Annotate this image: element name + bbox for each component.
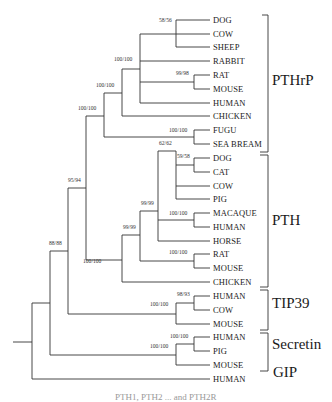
leaf-label: PIG [213, 346, 227, 356]
leaf-label: COW [213, 181, 233, 191]
leaf-label: MOUSE [213, 319, 243, 329]
bootstrap-value: 88/88 [49, 240, 62, 247]
bootstrap-value: 100/100 [96, 82, 114, 89]
family-label-pth: PTH [272, 212, 300, 228]
bootstrap-value: 62/62 [159, 140, 172, 147]
leaf-label: RAT [213, 70, 229, 80]
leaf-label: RAT [213, 249, 229, 259]
bootstrap-value: 100/100 [169, 127, 187, 134]
leaf-label: SHEEP [213, 42, 239, 52]
bootstrap-value: 100/100 [169, 210, 187, 217]
leaf-label: HUMAN [213, 98, 246, 108]
bootstrap-value: 98/93 [177, 291, 190, 298]
leaf-label: COW [213, 305, 233, 315]
leaf-label: MOUSE [213, 84, 243, 94]
bootstrap-value: 100/100 [78, 105, 96, 112]
leaf-label: RABBIT [213, 56, 245, 66]
bootstrap-value: 100/100 [169, 249, 187, 256]
leaf-label: CAT [213, 167, 229, 177]
leaf-label: MACAQUE [213, 208, 257, 218]
leaf-label: MOUSE [213, 360, 243, 370]
leaf-label: FUGU [213, 125, 237, 135]
bootstrap-value: 100/100 [114, 56, 132, 63]
leaf-label: COW [213, 29, 233, 39]
family-label-pthrp: PTHrP [272, 72, 314, 88]
bootstrap-value: 99/99 [123, 224, 136, 231]
bootstrap-value: 100/100 [83, 258, 101, 265]
bootstrap-value: 58/56 [159, 17, 172, 24]
bootstrap-value: 100/100 [150, 343, 168, 350]
leaf-label: CHICKEN [213, 277, 251, 287]
leaf-label: DOG [213, 153, 232, 163]
leaf-label: HORSE [213, 236, 241, 246]
family-label-secretin: Secretin [272, 336, 321, 352]
leaf-label: DOG [213, 15, 232, 25]
leaf-label: MOUSE [213, 263, 243, 273]
leaf-label: PIG [213, 194, 227, 204]
bootstrap-value: 100/100 [170, 333, 188, 340]
leaf-label: HUMAN [213, 222, 246, 232]
bootstrap-value: 99/99 [141, 200, 154, 207]
leaf-label: HUMAN [213, 374, 246, 384]
leaf-label: CHICKEN [213, 111, 251, 121]
family-brackets [260, 15, 268, 371]
bootstrap-value: 59/58 [177, 153, 190, 160]
leaf-label: SEA BREAM [213, 139, 262, 149]
family-label-tip39: TIP39 [272, 295, 310, 311]
leaf-label: HUMAN [213, 291, 246, 301]
family-label-gip: GIP [273, 364, 297, 380]
bootstrap-value: 95/94 [68, 177, 81, 184]
leaf-label: HUMAN [213, 332, 246, 342]
bootstrap-value: 100/100 [150, 301, 168, 308]
bootstrap-value: 99/98 [176, 70, 189, 77]
caption-partial: PTH1, PTH2 ... and PTH2R [115, 392, 217, 402]
